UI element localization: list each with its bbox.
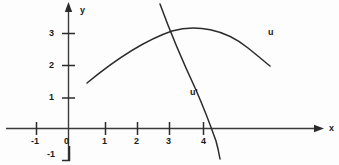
curve-label-u: u	[268, 28, 274, 37]
x-tick-label-4: 4	[201, 137, 206, 146]
x-axis-label: x	[329, 124, 334, 133]
graph-figure: -1 0 1 2 3 4 3 2 1 -1 y x u u'	[0, 0, 339, 165]
x-tick-label-2: 2	[134, 137, 139, 146]
x-tick-label-minus-1: -1	[31, 137, 39, 146]
y-tick-label-2: 2	[49, 61, 54, 70]
x-tick-label-3: 3	[166, 137, 171, 146]
x-axis	[6, 125, 324, 132]
y-tick-label-minus-1: -1	[47, 150, 55, 159]
y-axis-arrow-icon	[65, 2, 72, 12]
y-axis-label: y	[80, 6, 85, 15]
x-tick-label-origin: 0	[64, 137, 69, 146]
curve-u	[87, 28, 270, 83]
x-axis-arrow-icon	[314, 125, 324, 132]
y-tick-label-3: 3	[49, 29, 54, 38]
y-tick-label-1: 1	[49, 93, 54, 102]
x-tick-label-1: 1	[102, 137, 107, 146]
curve-label-u-prime: u'	[190, 88, 198, 97]
